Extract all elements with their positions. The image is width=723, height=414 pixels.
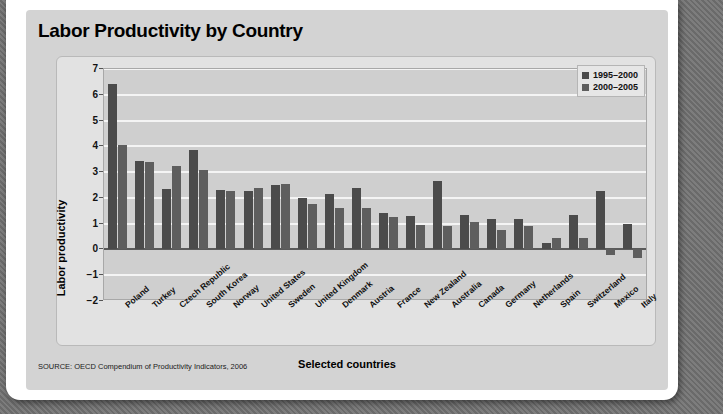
y-axis-tick-mark bbox=[99, 197, 103, 198]
x-axis-tick-label: Turkey bbox=[150, 302, 156, 310]
bar bbox=[497, 230, 506, 249]
y-axis-tick-mark bbox=[99, 274, 103, 275]
x-axis-tick-label: Australia bbox=[449, 302, 455, 310]
source-note: SOURCE: OECD Compendium of Productivity … bbox=[38, 362, 247, 371]
x-axis-labels: PolandTurkeyCzech RepublicSouth KoreaNor… bbox=[103, 302, 647, 362]
bar bbox=[406, 216, 415, 250]
y-axis-tick-label: 7 bbox=[92, 63, 98, 74]
bar bbox=[443, 226, 452, 249]
figure-panel: Labor Productivity by Country Labor prod… bbox=[26, 10, 668, 390]
bar bbox=[254, 188, 263, 250]
y-axis-tick-label: −2 bbox=[87, 295, 98, 306]
bar bbox=[470, 222, 479, 249]
x-axis-tick-label: France bbox=[395, 302, 401, 310]
bar-group bbox=[267, 69, 294, 299]
bar-group bbox=[402, 69, 429, 299]
y-axis-title: Labor productivity bbox=[55, 103, 71, 393]
bar bbox=[335, 208, 344, 249]
bar-group bbox=[239, 69, 266, 299]
legend-label: 2000–2005 bbox=[593, 81, 638, 93]
bar bbox=[226, 191, 235, 249]
bar bbox=[633, 249, 642, 258]
bar-group bbox=[565, 69, 592, 299]
x-axis-tick-label: New Zealand bbox=[422, 302, 428, 310]
bar bbox=[389, 217, 398, 249]
y-axis-tick-label: 4 bbox=[92, 140, 98, 151]
y-axis-tick-label: 1 bbox=[92, 217, 98, 228]
x-axis-tick-label: Austria bbox=[367, 302, 373, 310]
bar-group bbox=[131, 69, 158, 299]
y-axis-tick-mark bbox=[99, 145, 103, 146]
page-title: Labor Productivity by Country bbox=[38, 20, 303, 42]
y-axis-tick-label: 3 bbox=[92, 166, 98, 177]
x-axis-tick-label: Denmark bbox=[340, 302, 346, 310]
bar bbox=[416, 225, 425, 249]
bar bbox=[135, 161, 144, 250]
bar-group bbox=[321, 69, 348, 299]
y-axis-tick-label: 5 bbox=[92, 114, 98, 125]
bar bbox=[271, 185, 280, 249]
y-axis-tick-label: 6 bbox=[92, 88, 98, 99]
bar bbox=[172, 166, 181, 250]
legend-label: 1995–2000 bbox=[593, 69, 638, 81]
x-axis-tick-label: Netherlands bbox=[531, 302, 537, 310]
y-axis-tick-mark bbox=[99, 300, 103, 301]
x-axis-tick-label: South Korea bbox=[204, 302, 210, 310]
bar-group bbox=[510, 69, 537, 299]
bar bbox=[514, 219, 523, 250]
chart-legend: 1995–2000 2000–2005 bbox=[577, 65, 645, 97]
x-axis-tick-label: Switzerland bbox=[585, 302, 591, 310]
x-axis-tick-label: Italy bbox=[639, 302, 645, 310]
y-axis-tick-mark bbox=[99, 94, 103, 95]
plot-area bbox=[103, 68, 647, 300]
bar-group bbox=[619, 69, 646, 299]
x-axis-tick-label: United States bbox=[259, 302, 265, 310]
bar bbox=[352, 188, 361, 250]
bar bbox=[552, 238, 561, 250]
bar bbox=[524, 226, 533, 249]
x-axis-tick-label: United Kingdom bbox=[313, 302, 319, 310]
x-axis-tick-label: Germany bbox=[503, 302, 509, 310]
y-axis-tick-mark bbox=[99, 68, 103, 69]
bar-group bbox=[429, 69, 456, 299]
bar bbox=[216, 190, 225, 249]
bar bbox=[118, 145, 127, 249]
x-axis-tick-label: Spain bbox=[558, 302, 564, 310]
y-axis-tick-mark bbox=[99, 120, 103, 121]
bar-group bbox=[104, 69, 131, 299]
bar-group bbox=[483, 69, 510, 299]
bar bbox=[308, 204, 317, 249]
bar bbox=[623, 224, 632, 250]
x-axis-tick-label: Poland bbox=[123, 302, 129, 310]
bar bbox=[460, 215, 469, 250]
bar bbox=[108, 84, 117, 249]
bar-group bbox=[538, 69, 565, 299]
plot-wrapper: 76543210−1−2 bbox=[103, 68, 647, 300]
bar bbox=[298, 198, 307, 250]
bar bbox=[606, 249, 615, 254]
legend-swatch-icon bbox=[582, 84, 589, 91]
x-axis-tick-label: Czech Republic bbox=[177, 302, 183, 310]
bar bbox=[569, 215, 578, 250]
x-axis-tick-label: Mexico bbox=[612, 302, 618, 310]
y-axis-tick-label: 2 bbox=[92, 191, 98, 202]
y-axis-tick-mark bbox=[99, 248, 103, 249]
bar-group bbox=[375, 69, 402, 299]
x-axis-tick-label: Norway bbox=[231, 302, 237, 310]
bar bbox=[487, 219, 496, 250]
legend-item: 1995–2000 bbox=[582, 69, 638, 81]
bar bbox=[244, 191, 253, 249]
bar bbox=[199, 170, 208, 250]
y-axis-tick-label: −1 bbox=[87, 269, 98, 280]
y-axis-tick-mark bbox=[99, 171, 103, 172]
legend-item: 2000–2005 bbox=[582, 81, 638, 93]
bar bbox=[281, 184, 290, 250]
bar bbox=[162, 189, 171, 250]
x-axis-tick-label: Sweden bbox=[286, 302, 292, 310]
chart-container: Labor productivity 76543210−1−2 PolandTu… bbox=[56, 56, 656, 346]
bar-group bbox=[294, 69, 321, 299]
legend-swatch-icon bbox=[582, 72, 589, 79]
bar-group bbox=[456, 69, 483, 299]
bar-series-group bbox=[104, 69, 646, 299]
bar-group bbox=[592, 69, 619, 299]
